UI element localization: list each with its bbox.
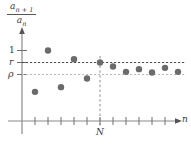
y-axis (19, 27, 25, 134)
data-point (162, 65, 168, 71)
data-point (136, 66, 142, 72)
data-point (110, 63, 116, 69)
y-axis-arrow-icon (19, 27, 25, 34)
data-point (45, 47, 51, 53)
data-point (175, 69, 181, 75)
x-axis (8, 118, 182, 124)
ratio-test-figure: an + 1 an 1 r ρ N n (0, 0, 191, 145)
data-point (58, 84, 64, 90)
data-point (97, 59, 103, 65)
plot-area (0, 0, 191, 145)
data-point (71, 56, 77, 62)
data-point (84, 75, 90, 81)
data-point (32, 89, 38, 95)
data-point (123, 69, 129, 75)
data-point-group (32, 47, 181, 95)
data-point (149, 69, 155, 75)
x-axis-arrow-icon (175, 118, 182, 124)
